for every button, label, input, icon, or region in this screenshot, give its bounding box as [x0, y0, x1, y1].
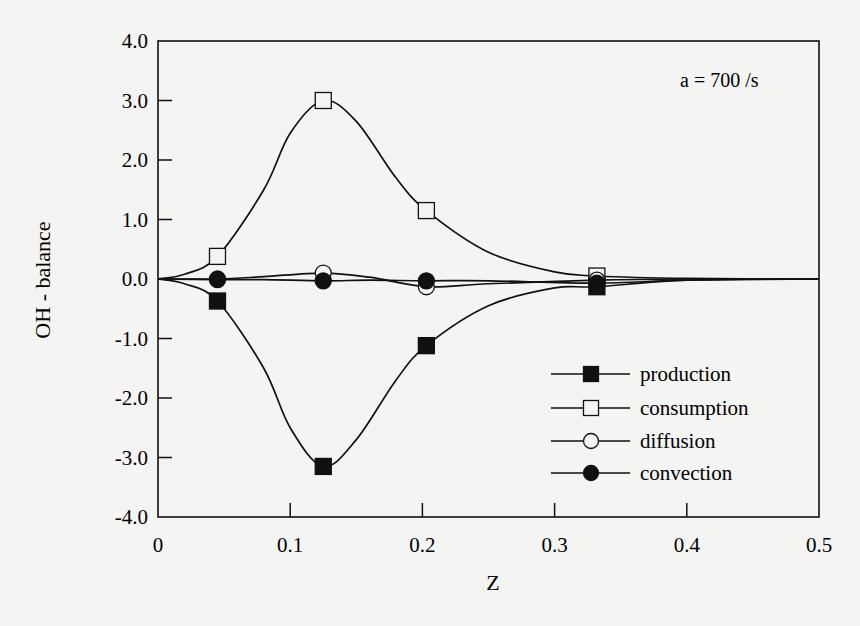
y-tick-label: 4.0	[122, 29, 148, 53]
y-tick-label: 1.0	[122, 208, 148, 232]
y-tick-label: -4.0	[115, 505, 148, 529]
marker-open-circle	[584, 434, 599, 449]
series-line-convection	[158, 279, 819, 283]
legend-item-convection: convection	[551, 461, 733, 485]
marker-filled-circle	[209, 272, 225, 288]
x-tick-label: 0.1	[277, 533, 303, 557]
x-tick-label: 0.5	[806, 533, 832, 557]
y-tick-label: -1.0	[115, 327, 148, 351]
legend-label: convection	[640, 461, 733, 485]
marker-open-square	[209, 248, 225, 264]
series-line-consumption	[158, 100, 819, 279]
x-tick-label: 0	[153, 533, 164, 557]
legend-label: diffusion	[640, 429, 716, 453]
legend-item-production: production	[551, 362, 731, 386]
y-tick-label: 3.0	[122, 89, 148, 113]
legend: productionconsumptiondiffusionconvection	[551, 362, 749, 485]
legend-label: production	[640, 362, 731, 386]
marker-open-square	[584, 401, 599, 416]
legend-label: consumption	[640, 396, 749, 420]
marker-filled-square	[315, 458, 331, 474]
annotation-strain-rate: a = 700 /s	[680, 69, 759, 91]
marker-filled-circle	[315, 273, 331, 289]
y-tick-label: -3.0	[115, 446, 148, 470]
marker-filled-circle	[584, 466, 599, 481]
marker-filled-square	[418, 338, 434, 354]
marker-open-square	[315, 93, 331, 109]
x-tick-label: 0.3	[541, 533, 567, 557]
x-axis: 00.10.20.30.40.5	[153, 503, 832, 557]
y-axis-title: OH - balance	[30, 221, 55, 338]
marker-filled-square	[209, 293, 225, 309]
y-tick-label: 2.0	[122, 148, 148, 172]
legend-item-consumption: consumption	[551, 396, 749, 420]
legend-item-diffusion: diffusion	[551, 429, 716, 453]
y-tick-label: -2.0	[115, 386, 148, 410]
chart: 4.03.02.01.00.0-1.0-2.0-3.0-4.0 00.10.20…	[0, 0, 860, 626]
marker-open-square	[418, 203, 434, 219]
marker-filled-square	[584, 367, 599, 382]
marker-filled-circle	[418, 273, 434, 289]
x-tick-label: 0.2	[409, 533, 435, 557]
y-tick-label: 0.0	[122, 267, 148, 291]
marker-filled-circle	[589, 275, 605, 291]
x-tick-label: 0.4	[674, 533, 701, 557]
x-axis-title: Z	[486, 570, 499, 595]
